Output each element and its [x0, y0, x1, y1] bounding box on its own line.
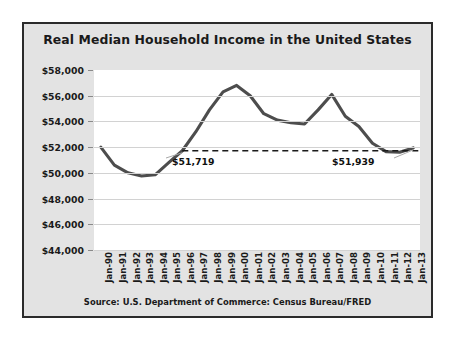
- y-axis-tick-mark: [88, 173, 93, 174]
- chart-source-note: Source: U.S. Department of Commerce: Cen…: [24, 297, 431, 307]
- y-axis-tick-label: $48,000: [42, 193, 84, 204]
- y-axis-tick-label: $54,000: [42, 116, 84, 127]
- data-annotation-label: $51,939: [332, 156, 374, 167]
- chart-title: Real Median Household Income in the Unit…: [24, 32, 431, 47]
- x-axis-tick-label: Jan-09: [362, 252, 372, 283]
- x-axis-tick-label: Jan-06: [322, 252, 332, 283]
- y-axis-tick-mark: [88, 147, 93, 148]
- x-axis-tick-label: Jan-93: [145, 252, 155, 283]
- x-axis-tick-label: Jan-13: [417, 252, 427, 283]
- x-axis-tick-label: Jan-04: [295, 252, 305, 283]
- x-axis-tick-label: Jan-00: [240, 252, 250, 283]
- x-axis-tick-label: Jan-02: [267, 252, 277, 283]
- y-axis-tick-mark: [88, 96, 93, 97]
- x-axis-tick-label: Jan-90: [104, 252, 114, 283]
- gridline: [94, 224, 420, 225]
- y-axis-tick-mark: [88, 250, 93, 251]
- gridline: [94, 96, 420, 97]
- x-axis-tick-label: Jan-91: [118, 252, 128, 283]
- gridline: [94, 173, 420, 174]
- x-axis-tick-label: Jan-03: [281, 252, 291, 283]
- x-axis-tick-label: Jan-92: [132, 252, 142, 283]
- y-axis-tick-label: $58,000: [42, 65, 84, 76]
- y-axis-tick-label: $44,000: [42, 245, 84, 256]
- y-axis-tick-mark: [88, 121, 93, 122]
- y-axis-tick-label: $52,000: [42, 142, 84, 153]
- x-axis-tick-label: Jan-98: [213, 252, 223, 283]
- gridline: [94, 121, 420, 122]
- x-axis-tick-label: Jan-07: [335, 252, 345, 283]
- chart-panel: Real Median Household Income in the Unit…: [22, 22, 433, 318]
- y-axis-tick-mark: [88, 199, 93, 200]
- gridline: [94, 147, 420, 148]
- x-axis-tick-label: Jan-94: [159, 252, 169, 283]
- x-axis-tick-label: Jan-01: [254, 252, 264, 283]
- data-annotation-label: $51,719: [172, 156, 214, 167]
- x-axis-tick-label: Jan-12: [403, 252, 413, 283]
- gridline: [94, 199, 420, 200]
- y-axis-tick-label: $46,000: [42, 219, 84, 230]
- x-axis-tick-label: Jan-99: [227, 252, 237, 283]
- x-axis-tick-label: Jan-95: [172, 252, 182, 283]
- y-axis-labels: $58,000$56,000$54,000$52,000$50,000$48,0…: [24, 70, 90, 250]
- x-axis-tick-label: Jan-05: [308, 252, 318, 283]
- chart-screenshot: Real Median Household Income in the Unit…: [0, 0, 455, 340]
- x-axis-tick-label: Jan-10: [376, 252, 386, 283]
- y-axis-tick-mark: [88, 70, 93, 71]
- x-axis-tick-label: Jan-08: [349, 252, 359, 283]
- x-axis-tick-label: Jan-97: [199, 252, 209, 283]
- y-axis-tick-label: $50,000: [42, 167, 84, 178]
- y-axis-tick-label: $56,000: [42, 90, 84, 101]
- x-axis-tick-label: Jan-11: [390, 252, 400, 283]
- x-axis-tick-label: Jan-96: [186, 252, 196, 283]
- y-axis-tick-mark: [88, 224, 93, 225]
